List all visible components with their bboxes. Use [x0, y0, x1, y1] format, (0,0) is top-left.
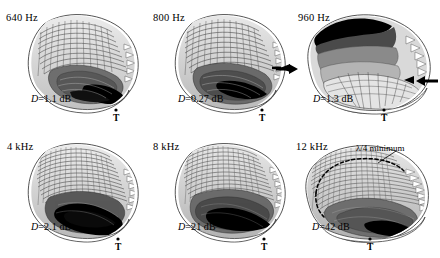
panel-960hz: 960 Hz D=1.3 dB T [294, 0, 440, 129]
panel-8khz: 8 kHz D=21 dB T [147, 129, 293, 258]
panel-12khz: 12 kHz λ/4 minimum D=42 dB T [294, 129, 440, 258]
panel-800hz: 800 Hz D=0.27 dB T [147, 0, 293, 129]
tragus-label-640hz: T [113, 113, 119, 123]
tragus-dot-8khz [262, 237, 265, 240]
directivity-label-12khz: D=42 dB [312, 221, 350, 232]
frequency-label-800hz: 800 Hz [153, 12, 185, 23]
tragus-label-8khz: T [261, 242, 267, 252]
arrow-left-pointing-right [276, 62, 302, 76]
frequency-label-12khz: 12 kHz [296, 141, 328, 152]
tragus-label-12khz: T [367, 242, 373, 252]
frequency-label-960hz: 960 Hz [298, 12, 330, 23]
tragus-dot-12khz [368, 237, 371, 240]
frequency-label-8khz: 8 kHz [153, 141, 179, 152]
frequency-label-640hz: 640 Hz [6, 12, 38, 23]
tragus-label-4khz: T [115, 242, 121, 252]
lambda-quarter-minimum-label: λ/4 minimum [356, 143, 405, 153]
frequency-label-4khz: 4 kHz [7, 141, 33, 152]
directivity-label-800hz: D=0.27 dB [178, 93, 223, 104]
tragus-dot-640hz [114, 108, 117, 111]
tragus-dot-4khz [116, 237, 119, 240]
panel-640hz: 640 Hz D=1.1 dB T [0, 0, 146, 129]
directivity-label-960hz: D=1.3 dB [313, 93, 353, 104]
tragus-dot-960hz [382, 108, 385, 111]
arrow-right-pointing-left [416, 74, 440, 88]
directivity-label-640hz: D=1.1 dB [31, 93, 71, 104]
directivity-label-4khz: D=2.1 dB [31, 221, 71, 232]
tragus-dot-800hz [260, 108, 263, 111]
directivity-label-8khz: D=21 dB [178, 221, 216, 232]
figure-root: 640 Hz D=1.1 dB T [0, 0, 440, 258]
panel-4khz: 4 kHz D=2.1 dB T [0, 129, 146, 258]
tragus-label-960hz: T [381, 113, 387, 123]
tragus-label-800hz: T [259, 113, 265, 123]
